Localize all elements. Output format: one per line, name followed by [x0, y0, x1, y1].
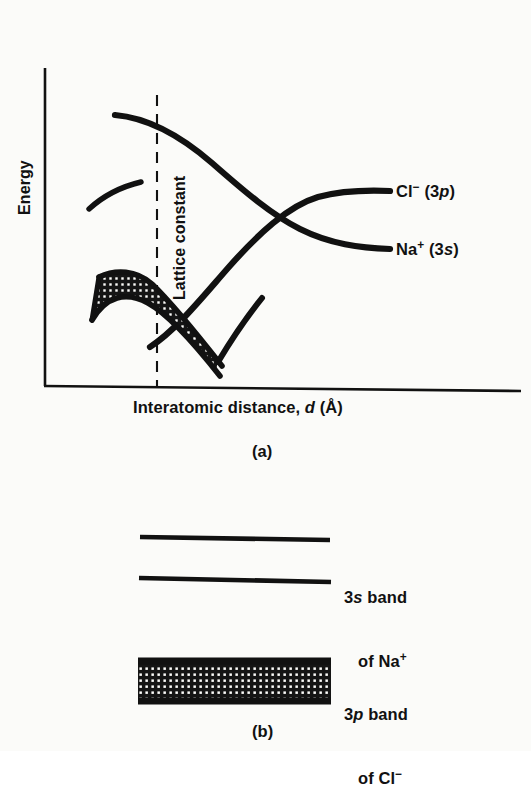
lattice-constant-label: Lattice constant	[171, 176, 189, 300]
band-label-3p-line1: 3p band	[344, 704, 408, 725]
3p-band-fill	[138, 659, 331, 703]
3s-band-lower-line	[139, 578, 331, 582]
band-label-3p-line2: of Cl−	[344, 768, 408, 788]
cl-orbital-letter: p	[439, 182, 449, 200]
x-axis-label: Interatomic distance, d (Å)	[133, 398, 343, 417]
well-to-curve-connector	[218, 298, 262, 362]
band-label-3p-cl: 3p band of Cl−	[344, 662, 408, 788]
band-3p-orbital-letter: p	[353, 705, 363, 723]
panel-b-3p-band	[138, 659, 331, 703]
x-axis-line	[44, 386, 521, 391]
panel-b-caption: (b)	[252, 722, 273, 741]
band-3s-orbital-letter: s	[353, 588, 362, 606]
series-label-na-3s: Na+ (3s)	[396, 240, 459, 259]
na-ion-charge-sign: +	[400, 649, 407, 663]
cl-charge-sign: −	[413, 180, 420, 194]
3s-band-upper-line	[140, 537, 330, 540]
x-axis-symbol-d: d	[305, 398, 315, 416]
na-orbital-letter: s	[444, 240, 453, 258]
panel-a-caption: (a)	[252, 442, 272, 461]
cl-ion-charge-sign: −	[395, 766, 402, 780]
panel-b-3s-band	[139, 537, 331, 582]
band-label-3s-line1: 3s band	[344, 587, 407, 608]
upper-well-boundary-arc	[89, 182, 141, 209]
series-label-cl-3p: Cl− (3p)	[396, 182, 455, 201]
y-axis-label: Energy	[16, 160, 34, 215]
